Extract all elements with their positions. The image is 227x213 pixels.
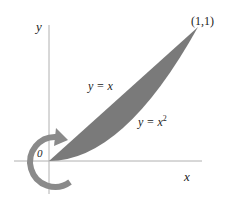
- shaded-region: [49, 27, 198, 161]
- rotation-arrow-icon: [30, 137, 70, 187]
- curve-label-parabola-text: y = x: [138, 115, 163, 129]
- diagram-canvas: [0, 0, 227, 213]
- x-axis-label: x: [184, 170, 190, 183]
- curve-label-parabola-exponent: 2: [163, 114, 167, 123]
- point-label: (1,1): [191, 15, 214, 27]
- origin-label: 0: [37, 148, 43, 159]
- curve-label-line-text: y = x: [88, 79, 113, 93]
- curve-label-line: y = x: [88, 80, 113, 92]
- rotation-arrowhead-icon: [54, 128, 68, 146]
- y-axis-label: y: [36, 20, 42, 33]
- curve-label-parabola: y = x2: [138, 115, 167, 128]
